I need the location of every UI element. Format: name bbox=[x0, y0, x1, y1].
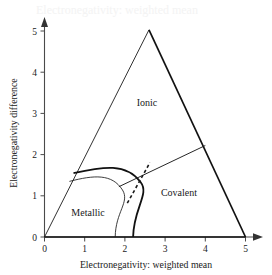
covalent-ionic-divider-line bbox=[119, 146, 205, 187]
region-label-metallic: Metallic bbox=[71, 207, 105, 218]
bleed-text: Electronegativity: weighted mean bbox=[36, 3, 198, 17]
y-axis-arrowhead bbox=[41, 17, 48, 27]
x-tick-label-1: 1 bbox=[82, 244, 87, 254]
triangle-right-edge bbox=[149, 30, 246, 237]
y-tick-label-1: 1 bbox=[32, 191, 37, 201]
y-tick-label-5: 5 bbox=[32, 27, 37, 37]
bonding-triangle-plot: Electronegativity: weighted mean 0 1 2 3… bbox=[0, 0, 272, 275]
bonding-triangle-figure: Electronegativity: weighted mean 0 1 2 3… bbox=[0, 0, 272, 275]
triangle-left-edge bbox=[45, 30, 150, 237]
y-tick-label-2: 2 bbox=[32, 150, 37, 160]
y-axis-title: Electronegativity difference bbox=[8, 78, 19, 188]
x-axis-title: Electronegativity: weighted mean bbox=[80, 259, 212, 270]
scan-bleed-artifact: Electronegativity: weighted mean bbox=[36, 3, 198, 17]
region-label-ionic: Ionic bbox=[137, 97, 158, 108]
x-tick-label-0: 0 bbox=[42, 244, 47, 254]
bonding-triangle bbox=[45, 30, 246, 237]
y-tick-label-0: 0 bbox=[32, 233, 37, 243]
region-label-covalent: Covalent bbox=[161, 187, 197, 198]
x-axis-arrowhead bbox=[253, 233, 263, 241]
y-tick-label-3: 3 bbox=[32, 109, 37, 119]
x-tick-label-2: 2 bbox=[123, 244, 128, 254]
x-tick-label-3: 3 bbox=[163, 244, 168, 254]
y-tick-label-4: 4 bbox=[32, 68, 37, 78]
y-axis: 0 1 2 3 4 5 Electronegativity difference bbox=[8, 17, 48, 243]
x-tick-label-5: 5 bbox=[243, 244, 248, 254]
metallic-boundary-arcs bbox=[69, 168, 143, 237]
x-axis: 0 1 2 3 4 5 Electronegativity: weighted … bbox=[42, 233, 263, 270]
x-tick-label-4: 4 bbox=[203, 244, 208, 254]
region-labels: Ionic Covalent Metallic bbox=[71, 97, 197, 218]
covalent-ionic-divider-dashed bbox=[127, 163, 150, 204]
